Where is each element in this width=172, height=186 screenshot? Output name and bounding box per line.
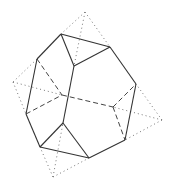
dotted-edge-Ptop-A (61, 12, 85, 34)
dotted-edge-Pright-L (113, 107, 162, 120)
dotted-edge-Pbottom-F (40, 147, 53, 177)
solid-edge-G-H (26, 59, 37, 114)
solid-edge-A-I (61, 34, 74, 66)
dotted-edge-Pright-C (136, 84, 162, 120)
hidden-edge-K-L (62, 95, 113, 107)
solid-edge-H-A (37, 34, 61, 59)
solid-edge-B-C (110, 47, 136, 84)
solid-edge-A-B (61, 34, 110, 47)
hidden-edge-G-K (26, 95, 62, 114)
visible-edges (26, 34, 136, 158)
solid-edge-J-F (40, 123, 63, 147)
solid-edge-I-J (63, 66, 74, 123)
dotted-edge-Pleft-G (13, 82, 26, 114)
circumscribed-tetrahedron-edges (13, 12, 162, 177)
polyhedron-diagram (0, 0, 172, 186)
solid-edge-B-I (74, 47, 110, 66)
hidden-edge-L-D (113, 107, 125, 140)
hidden-edges (26, 59, 136, 140)
solid-edge-D-E (89, 140, 125, 158)
solid-edge-F-G (26, 114, 40, 147)
solid-edge-C-D (125, 84, 136, 140)
dotted-edge-Pbottom-E (53, 158, 89, 177)
dotted-edge-Pright-D (125, 120, 162, 140)
dotted-edge-Pleft-K (13, 82, 62, 95)
